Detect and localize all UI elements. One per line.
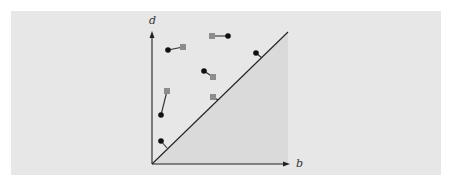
- matched-circle-point: [165, 47, 171, 53]
- y-axis-arrow-icon: [150, 31, 155, 38]
- matched-square-point: [180, 44, 186, 50]
- match-line: [161, 91, 167, 115]
- diagonal-matched-square-point: [210, 94, 216, 100]
- matched-circle-point: [158, 112, 164, 118]
- y-axis-label: d: [149, 14, 156, 27]
- matched-circle-point: [225, 33, 231, 39]
- matched-circle-point: [201, 68, 207, 74]
- x-axis-label: b: [296, 157, 303, 170]
- matched-square-point: [164, 88, 170, 94]
- matched-square-point: [210, 74, 216, 80]
- persistence-diagram: d b: [0, 0, 452, 185]
- diagonal-matched-circle-point: [158, 138, 164, 144]
- matched-square-point: [209, 33, 215, 39]
- diagonal-matched-circle-point: [253, 50, 259, 56]
